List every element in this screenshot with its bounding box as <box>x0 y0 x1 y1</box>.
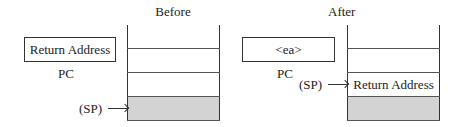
before-pc-value: Return Address <box>30 42 111 58</box>
before-sp-label: (SP) <box>79 101 102 117</box>
before-stack-bottom <box>127 120 220 121</box>
before-stack-divider <box>127 72 220 73</box>
after-stack-divider <box>347 48 440 49</box>
after-stack-shaded-cell <box>348 96 439 120</box>
after-stack-cell-text: Return Address <box>353 77 434 93</box>
before-stack-divider <box>127 48 220 49</box>
after-pc-register: <ea> <box>242 37 335 62</box>
before-pc-label: PC <box>58 66 74 82</box>
after-pc-label: PC <box>277 66 293 82</box>
before-stack-divider <box>127 96 220 97</box>
before-stack-shaded-cell <box>128 96 219 120</box>
after-sp-label: (SP) <box>299 77 322 93</box>
after-sp-arrow-icon <box>328 84 347 85</box>
after-stack-cell-return-address: Return Address <box>348 73 439 96</box>
before-pc-register: Return Address <box>24 37 116 62</box>
after-title: After <box>328 4 420 20</box>
before-title: Before <box>127 4 219 20</box>
after-pc-value: <ea> <box>275 42 301 58</box>
before-sp-arrow-icon <box>108 108 127 109</box>
after-stack-divider <box>347 96 440 97</box>
after-stack-bottom <box>347 120 440 121</box>
